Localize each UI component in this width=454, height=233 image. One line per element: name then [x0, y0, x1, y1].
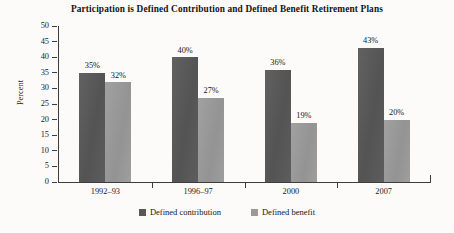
y-axis-tick-mark: [52, 104, 57, 105]
bar-group: 35%32%: [59, 26, 152, 182]
bar-group: 40%27%: [152, 26, 245, 182]
bar-value-label: 27%: [191, 85, 231, 96]
y-axis-tick-label: 50: [41, 21, 49, 31]
y-axis-tick-mark: [52, 26, 57, 27]
plot-area: 35%32%40%27%36%19%43%20%: [59, 26, 430, 182]
bar-value-label: 20%: [377, 107, 417, 118]
bar-group: 36%19%: [245, 26, 338, 182]
bar-defined-benefit[interactable]: 20%: [384, 120, 410, 182]
bar-pair: 43%20%: [337, 26, 430, 182]
y-axis-tick-mark: [52, 166, 57, 167]
y-axis-tick: 15: [0, 130, 58, 140]
y-axis-tick: 0: [0, 177, 58, 187]
bar-group: 43%20%: [337, 26, 430, 182]
y-axis-tick-mark: [52, 88, 57, 89]
y-axis-tick-label: 40: [41, 52, 49, 62]
y-axis-tick: 45: [0, 37, 58, 47]
legend-label: Defined contribution: [150, 207, 221, 217]
x-axis-category-label: 2007: [337, 186, 430, 198]
y-axis-tick: 50: [0, 21, 58, 31]
bar-pair: 40%27%: [152, 26, 245, 182]
y-axis-tick-label: 25: [41, 99, 49, 109]
bar-defined-contribution[interactable]: 35%: [79, 73, 105, 182]
x-axis-category-label: 1996–97: [152, 186, 245, 198]
bar-value-label: 19%: [284, 110, 324, 121]
y-axis-tick-label: 35: [41, 68, 49, 78]
bar-defined-contribution[interactable]: 40%: [172, 57, 198, 182]
y-axis-tick-label: 5: [45, 161, 49, 171]
bar-defined-benefit[interactable]: 27%: [198, 98, 224, 182]
y-axis-tick-label: 20: [41, 115, 49, 125]
y-axis-tick: 40: [0, 52, 58, 62]
y-axis-tick: 35: [0, 68, 58, 78]
legend-swatch-icon: [251, 209, 258, 216]
bar-defined-contribution[interactable]: 36%: [265, 70, 291, 182]
y-axis-tick-label: 15: [41, 130, 49, 140]
x-axis-end-tick: [430, 175, 431, 183]
bar-pair: 36%19%: [245, 26, 338, 182]
bar-value-label: 36%: [258, 57, 298, 68]
legend-swatch-icon: [139, 209, 146, 216]
x-axis-category-label: 2000: [245, 186, 338, 198]
y-axis-tick: 25: [0, 99, 58, 109]
x-axis-category-label: 1992–93: [59, 186, 152, 198]
bar-defined-benefit[interactable]: 32%: [105, 82, 131, 182]
bar-pair: 35%32%: [59, 26, 152, 182]
y-axis-tick-mark: [52, 57, 57, 58]
y-axis-title: Percent: [16, 63, 25, 123]
legend-label: Defined benefit: [262, 207, 315, 217]
y-axis-tick-mark: [52, 72, 57, 73]
y-axis-tick-label: 45: [41, 37, 49, 47]
bar-defined-benefit[interactable]: 19%: [291, 123, 317, 182]
y-axis-tick-label: 0: [45, 177, 49, 187]
y-axis-tick: 10: [0, 146, 58, 156]
y-axis-tick-label: 10: [41, 146, 49, 156]
legend-item[interactable]: Defined benefit: [251, 207, 315, 217]
y-axis-tick: 20: [0, 115, 58, 125]
legend-item[interactable]: Defined contribution: [139, 207, 221, 217]
y-axis-tick-mark: [52, 135, 57, 136]
y-axis-tick: 30: [0, 83, 58, 93]
bar-value-label: 40%: [165, 45, 205, 56]
chart-legend: Defined contributionDefined benefit: [0, 207, 454, 217]
chart-title: Participation is Defined Contribution an…: [0, 3, 454, 15]
y-axis-tick-label: 30: [41, 83, 49, 93]
y-axis-tick-mark: [52, 119, 57, 120]
y-axis-tick-mark: [52, 150, 57, 151]
y-axis-tick: 5: [0, 161, 58, 171]
y-axis-tick-mark: [52, 182, 57, 183]
bar-value-label: 43%: [351, 35, 391, 46]
y-axis-tick-mark: [52, 41, 57, 42]
bar-chart-figure: Participation is Defined Contribution an…: [0, 0, 454, 233]
bar-value-label: 32%: [98, 70, 138, 81]
